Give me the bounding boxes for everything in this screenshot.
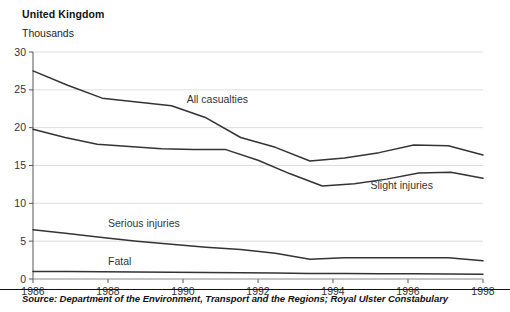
- x-axis-tick-label: 1998: [471, 285, 495, 297]
- series-line: [33, 230, 483, 261]
- series-label: Slight injuries: [371, 179, 433, 191]
- series-label: All casualties: [187, 93, 248, 105]
- y-axis-ticks-group: 051015202530: [14, 46, 33, 285]
- gridlines-group: [33, 52, 483, 241]
- series-labels-group: All casualtiesSlight injuriesSerious inj…: [108, 93, 433, 266]
- data-series-group: [33, 71, 483, 274]
- source-note: Source: Department of the Environment, T…: [22, 293, 448, 304]
- series-line: [33, 71, 483, 161]
- y-axis-tick-label: 30: [14, 46, 26, 58]
- series-label: Serious injuries: [108, 217, 180, 229]
- series-label: Fatal: [108, 255, 131, 267]
- y-axis-tick-label: 0: [20, 273, 26, 285]
- series-line: [33, 129, 483, 186]
- chart-page: United Kingdom Thousands 051015202530 19…: [0, 0, 510, 312]
- series-line: [33, 271, 483, 274]
- line-chart-svg: 051015202530 198619881990199219941996199…: [0, 0, 510, 312]
- y-axis-tick-label: 15: [14, 159, 26, 171]
- y-axis-tick-label: 20: [14, 121, 26, 133]
- y-axis-tick-label: 5: [20, 235, 26, 247]
- y-axis-tick-label: 10: [14, 197, 26, 209]
- chart-plot-area: 051015202530 198619881990199219941996199…: [0, 0, 510, 312]
- footer-divider: [0, 289, 510, 290]
- y-axis-tick-label: 25: [14, 83, 26, 95]
